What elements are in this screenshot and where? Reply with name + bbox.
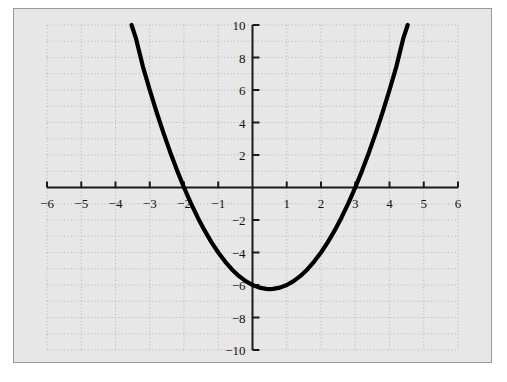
x-tick-label: −6: [40, 197, 54, 210]
x-tick-label: 1: [284, 197, 291, 210]
y-tick-label: −8: [232, 311, 246, 324]
y-tick-label: 2: [239, 149, 246, 162]
x-tick-label: −1: [211, 197, 225, 210]
x-tick-label: 6: [455, 197, 462, 210]
y-tick-label: −6: [232, 279, 246, 292]
y-tick-label: 8: [239, 51, 246, 64]
parabola-curve: [132, 25, 408, 289]
x-tick-label: −5: [74, 197, 88, 210]
y-tick-label: −10: [225, 344, 245, 357]
y-tick-label: 4: [239, 116, 246, 129]
x-tick-label: 4: [386, 197, 393, 210]
coordinate-plane-graph: [14, 9, 491, 362]
x-tick-label: −4: [109, 197, 123, 210]
x-tick-label: −3: [143, 197, 157, 210]
x-tick-label: 3: [352, 197, 359, 210]
x-tick-label: 5: [421, 197, 428, 210]
x-tick-label: −2: [177, 197, 191, 210]
y-tick-label: 6: [239, 84, 246, 97]
y-tick-label: −2: [232, 214, 246, 227]
x-tick-label: 2: [318, 197, 325, 210]
figure-canvas: −6−5−4−3−2−1123456108642−2−4−6−8−10: [0, 0, 507, 382]
y-tick-label: 10: [233, 19, 246, 32]
y-tick-label: −4: [232, 246, 246, 259]
plot-area: −6−5−4−3−2−1123456108642−2−4−6−8−10: [13, 8, 492, 363]
